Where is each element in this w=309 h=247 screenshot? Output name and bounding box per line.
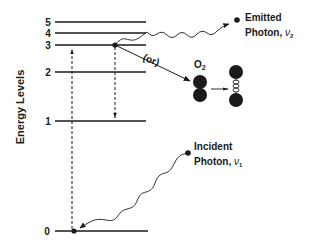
incident-photon-wave <box>80 153 188 228</box>
incident-photon-label-line1: Incident <box>194 141 233 152</box>
oxygen-atom-top <box>229 65 243 79</box>
emitted-photon-dot <box>234 17 240 23</box>
level-label-3: 3 <box>45 40 51 51</box>
energy-level-diagram: Energy Levels 0 1 2 3 4 5 Emitted Photon… <box>0 0 309 247</box>
level-label-2: 2 <box>45 67 51 78</box>
axis-title: Energy Levels <box>14 70 26 145</box>
level-labels: 0 1 2 3 4 5 <box>44 17 51 237</box>
level-label-4: 4 <box>45 28 51 39</box>
emitted-photon-label-line2: Photon, ν2 <box>245 27 294 39</box>
level-label-0: 0 <box>44 226 50 237</box>
level-label-5: 5 <box>45 17 51 28</box>
level-label-1: 1 <box>45 116 51 127</box>
incident-photon-label-line2: Photon, ν1 <box>194 156 243 168</box>
emitted-photon-wave <box>147 24 229 38</box>
oxygen-atom-bottom <box>193 88 207 102</box>
spring-bond-icon <box>233 79 239 93</box>
oxygen-atom-top <box>193 75 207 89</box>
o2-molecule-excited <box>229 65 243 107</box>
emission-wave-start <box>115 32 147 45</box>
oxygen-atom-bottom <box>229 93 243 107</box>
ground-state-dot <box>71 228 76 233</box>
emitted-photon-label-line1: Emitted <box>245 12 282 23</box>
o2-label: O2 <box>194 59 206 71</box>
o2-molecule-ground <box>193 75 207 102</box>
energy-levels <box>55 22 148 231</box>
